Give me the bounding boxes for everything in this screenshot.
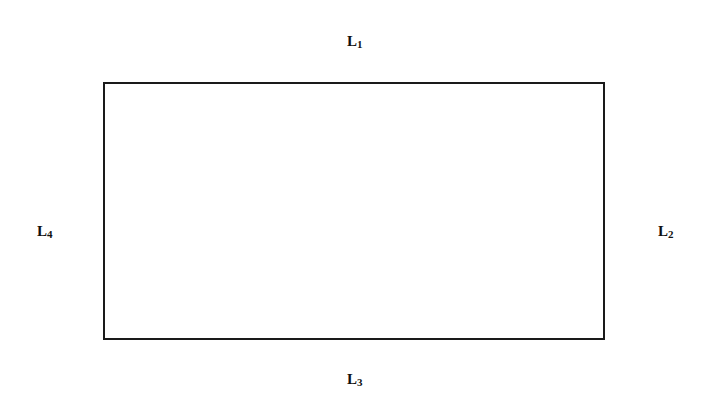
label-right-l2: L2 [658, 223, 674, 240]
label-left-l4: L4 [37, 223, 53, 240]
label-top-l1: L1 [347, 33, 363, 50]
label-bottom-l3: L3 [347, 371, 363, 388]
rectangle [103, 82, 605, 340]
